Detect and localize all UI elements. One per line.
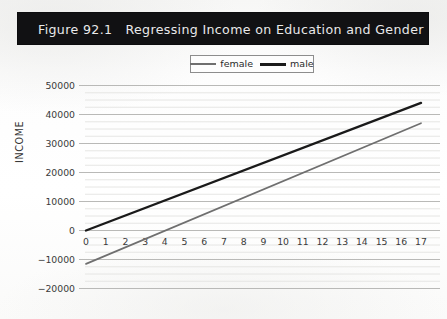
x-tick-label: 13: [336, 236, 348, 247]
x-tick-label: 12: [317, 236, 329, 247]
minor-gridlines: [85, 93, 440, 282]
x-tick-label: 5: [182, 236, 188, 247]
x-tick-label: 0: [83, 236, 89, 247]
x-tick-label: 10: [277, 236, 289, 247]
x-tick-label: 17: [415, 236, 427, 247]
x-tick-label: 14: [356, 236, 368, 247]
y-tick-label: 10000: [45, 196, 75, 207]
series-line-female: [86, 123, 421, 264]
y-tick-label: 20000: [45, 167, 75, 178]
series-lines: [86, 103, 421, 264]
x-tick-label: 1: [103, 236, 109, 247]
x-tick-label: 8: [241, 236, 247, 247]
figure-page: Figure 92.1 Regressing Income on Educati…: [0, 0, 447, 319]
x-tick-label: 11: [297, 236, 309, 247]
y-tick-label: 40000: [45, 109, 75, 120]
y-tick-label: −20000: [38, 283, 75, 294]
y-tick-label: 50000: [45, 80, 75, 91]
y-tick-labels: 50000400003000020000100000−10000−20000: [38, 80, 75, 294]
y-tick-label: 0: [69, 225, 75, 236]
chart-plot-area: 50000400003000020000100000−10000−20000 0…: [0, 0, 447, 319]
x-tick-label: 16: [395, 236, 407, 247]
x-tick-label: 9: [260, 236, 266, 247]
x-tick-label: 6: [201, 236, 207, 247]
x-tick-label: 2: [122, 236, 128, 247]
chart-svg: 50000400003000020000100000−10000−20000 0…: [0, 0, 447, 319]
y-tick-label: 30000: [45, 138, 75, 149]
y-tick-label: −10000: [38, 254, 75, 265]
x-tick-label: 7: [221, 236, 227, 247]
x-tick-label: 4: [162, 236, 168, 247]
x-tick-label: 15: [376, 236, 388, 247]
